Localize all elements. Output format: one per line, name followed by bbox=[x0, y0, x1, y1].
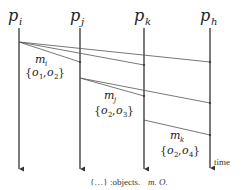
svg-text:h: h bbox=[211, 16, 217, 27]
svg-text:{: { bbox=[160, 144, 167, 157]
message-objects-mk: { o 2 , o 4 } bbox=[160, 144, 200, 159]
message-label-mk: m k bbox=[170, 129, 184, 144]
svg-text:p: p bbox=[8, 6, 18, 25]
svg-text::objects.: :objects. bbox=[110, 177, 140, 187]
svg-text:}: } bbox=[58, 66, 65, 79]
svg-text:m.: m. bbox=[148, 177, 157, 187]
svg-text:m: m bbox=[35, 53, 45, 66]
svg-text:o: o bbox=[182, 144, 189, 157]
process-label-pj: p j bbox=[70, 6, 84, 27]
message-mj bbox=[80, 78, 211, 104]
legend-caption: {…} :objects. m. O. bbox=[90, 177, 168, 187]
svg-text:p: p bbox=[134, 6, 144, 25]
svg-text:,: , bbox=[178, 144, 182, 157]
message-objects-mi: { o 1 , o 2 } bbox=[25, 66, 65, 81]
message-objects-mj: { o 2 , o 3 } bbox=[94, 104, 134, 119]
svg-text:k: k bbox=[180, 136, 184, 144]
svg-text:{: { bbox=[94, 104, 101, 117]
svg-text:m: m bbox=[170, 129, 180, 142]
svg-text:i: i bbox=[19, 16, 22, 27]
time-axis-label: time bbox=[214, 157, 230, 167]
svg-text:}: } bbox=[127, 104, 134, 117]
svg-text:o: o bbox=[116, 104, 123, 117]
process-label-ph: p h bbox=[200, 6, 217, 27]
svg-text:O.: O. bbox=[159, 177, 168, 187]
svg-text:o: o bbox=[32, 66, 39, 79]
svg-text:}: } bbox=[193, 144, 200, 157]
svg-text:o: o bbox=[47, 66, 54, 79]
process-label-pi: p i bbox=[8, 6, 22, 27]
sequence-diagram: p i p j p k p h m i bbox=[0, 0, 244, 190]
svg-text:o: o bbox=[167, 144, 174, 157]
svg-text:o: o bbox=[101, 104, 108, 117]
svg-text:p: p bbox=[70, 6, 80, 25]
svg-text:p: p bbox=[200, 6, 210, 25]
process-label-pk: p k bbox=[134, 6, 151, 27]
message-mi bbox=[19, 42, 211, 66]
svg-text:,: , bbox=[43, 66, 47, 79]
svg-text:{: { bbox=[25, 66, 32, 79]
svg-text:{…}: {…} bbox=[90, 177, 108, 187]
svg-text:k: k bbox=[145, 16, 151, 27]
svg-text:m: m bbox=[104, 89, 114, 102]
svg-text:,: , bbox=[112, 104, 116, 117]
message-label-mj: m j bbox=[104, 89, 117, 104]
